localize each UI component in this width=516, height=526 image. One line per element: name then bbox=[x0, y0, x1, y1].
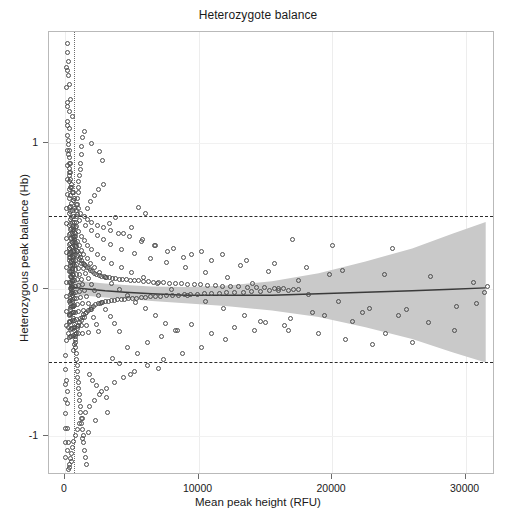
data-point bbox=[290, 237, 295, 242]
data-point bbox=[74, 220, 79, 225]
data-point bbox=[73, 340, 78, 345]
data-point bbox=[119, 247, 124, 252]
data-point bbox=[426, 320, 431, 325]
data-point bbox=[88, 199, 93, 204]
data-point bbox=[73, 334, 78, 339]
data-point bbox=[86, 430, 91, 435]
data-point bbox=[242, 313, 247, 318]
data-point bbox=[105, 410, 110, 415]
data-point bbox=[78, 167, 83, 172]
data-point bbox=[183, 265, 188, 270]
data-point bbox=[156, 366, 161, 371]
data-point bbox=[71, 190, 76, 195]
x-axis-tick bbox=[64, 474, 65, 479]
data-point bbox=[135, 351, 140, 356]
data-point bbox=[145, 340, 150, 345]
data-point bbox=[70, 299, 75, 304]
data-point bbox=[109, 261, 114, 266]
data-point bbox=[185, 282, 190, 287]
data-point bbox=[286, 328, 291, 333]
data-point bbox=[65, 50, 70, 55]
x-axis-tick bbox=[331, 474, 332, 479]
data-point bbox=[66, 331, 71, 336]
data-point bbox=[95, 252, 100, 257]
x-axis-tick-label: 30000 bbox=[450, 482, 479, 494]
data-point bbox=[241, 290, 246, 295]
data-point bbox=[485, 284, 490, 289]
x-axis-tick-label: 0 bbox=[61, 482, 67, 494]
data-point bbox=[80, 135, 85, 140]
data-point bbox=[65, 148, 70, 153]
data-point bbox=[77, 392, 82, 397]
data-point bbox=[73, 433, 78, 438]
data-point bbox=[101, 182, 106, 187]
data-point bbox=[330, 243, 335, 248]
data-point bbox=[232, 290, 237, 295]
data-point bbox=[71, 255, 76, 260]
data-point bbox=[64, 236, 69, 241]
data-point bbox=[199, 249, 204, 254]
data-point bbox=[64, 309, 69, 314]
data-point bbox=[72, 249, 77, 254]
data-point bbox=[99, 389, 104, 394]
data-point bbox=[94, 322, 99, 327]
data-point bbox=[170, 293, 175, 298]
y-axis-title: Heterozygous peak balance (Hb) bbox=[18, 38, 30, 478]
data-point bbox=[68, 97, 73, 102]
data-point bbox=[77, 173, 82, 178]
data-point bbox=[75, 202, 80, 207]
data-point bbox=[452, 328, 457, 333]
data-point bbox=[70, 278, 75, 283]
data-point bbox=[86, 330, 91, 335]
data-point bbox=[209, 291, 214, 296]
x-axis-tick bbox=[198, 474, 199, 479]
data-point bbox=[383, 331, 388, 336]
data-point bbox=[202, 291, 207, 296]
data-point bbox=[95, 233, 100, 238]
data-point bbox=[65, 192, 70, 197]
trend-layer bbox=[49, 32, 493, 473]
data-point bbox=[482, 290, 487, 295]
data-point bbox=[80, 301, 85, 306]
data-point bbox=[72, 243, 77, 248]
data-point bbox=[64, 280, 69, 285]
data-point bbox=[65, 119, 70, 124]
data-point bbox=[78, 410, 83, 415]
data-point bbox=[252, 328, 257, 333]
data-point bbox=[310, 310, 315, 315]
data-point bbox=[63, 455, 68, 460]
data-point bbox=[119, 265, 124, 270]
y-axis-tick bbox=[43, 435, 48, 436]
data-point bbox=[390, 246, 395, 251]
x-axis-tick bbox=[465, 474, 466, 479]
data-point bbox=[203, 270, 208, 275]
data-point bbox=[79, 416, 84, 421]
data-point bbox=[143, 306, 148, 311]
data-point bbox=[195, 292, 200, 297]
data-point bbox=[220, 252, 225, 257]
data-point bbox=[66, 59, 71, 64]
chart-title: Heterozygote balance bbox=[0, 8, 516, 22]
data-point bbox=[65, 163, 70, 168]
data-point bbox=[121, 375, 126, 380]
data-point bbox=[232, 325, 237, 330]
data-point bbox=[64, 265, 69, 270]
data-point bbox=[223, 337, 228, 342]
data-point bbox=[86, 276, 91, 281]
data-point bbox=[167, 281, 172, 286]
data-point bbox=[343, 337, 348, 342]
data-point bbox=[72, 328, 77, 333]
data-point bbox=[296, 287, 301, 292]
data-point bbox=[136, 205, 141, 210]
data-point bbox=[65, 401, 70, 406]
data-point bbox=[91, 315, 96, 320]
data-point bbox=[76, 185, 81, 190]
data-point bbox=[192, 282, 197, 287]
data-point bbox=[89, 282, 94, 287]
data-point bbox=[117, 329, 122, 334]
x-axis-tick-label: 20000 bbox=[316, 482, 345, 494]
data-point bbox=[367, 306, 372, 311]
data-point bbox=[92, 398, 97, 403]
data-point bbox=[72, 322, 77, 327]
data-point bbox=[64, 338, 69, 343]
